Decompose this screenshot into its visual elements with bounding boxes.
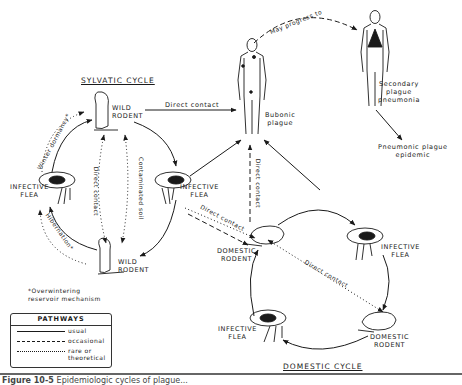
label-bubonic-plague: Bubonic plague [265, 111, 295, 127]
label-wild-rodent-top: WILD RODENT [112, 104, 143, 120]
legend-label: occasional [68, 337, 105, 344]
figure-caption: Figure 10-5 Epidemiologic cycles of plag… [2, 376, 188, 385]
domestic-cycle-title: DOMESTIC CYCLE [283, 362, 363, 371]
legend-item-occasional: occasional [11, 336, 111, 346]
label-infective-flea-domestic-right: INFECTIVE FLEA [381, 243, 420, 259]
label-infective-flea-sylvatic-right: INFECTIVE FLEA [180, 183, 219, 199]
dotted-line-swatch [17, 351, 65, 352]
sylvatic-cycle-arrows [50, 120, 176, 256]
label-direct-contact-top: Direct contact [165, 101, 219, 109]
legend-title: PATHWAYS [11, 314, 111, 326]
label-domestic-rodent-right: DOMESTIC RODENT [370, 333, 409, 349]
label-domestic-rodent-left: DOMESTIC RODENT [217, 247, 256, 263]
label-pneumonic-epidemic: Pneumonic plague epidemic [378, 143, 448, 159]
label-wild-rodent-bottom: WILD RODENT [118, 258, 149, 274]
label-infective-flea-sylvatic-left: INFECTIVE FLEA [10, 183, 49, 199]
solid-line-swatch [17, 331, 65, 332]
label-direct-contact-vertical: Direct contact [255, 159, 262, 208]
label-contaminated-soil: Contaminated soil [138, 157, 145, 220]
caption-text: Epidemiologic cycles of plague... [57, 376, 188, 385]
pathways-legend: PATHWAYS usual occasional rare or theore… [10, 313, 112, 368]
footnote-overwintering: *Overwintering reservoir mechanism [28, 287, 101, 303]
label-secondary-pneumonia: Secondary plague pneumonia [378, 80, 420, 104]
flea-domestic-right [347, 228, 383, 260]
domestic-rodent-right-shape [358, 312, 396, 332]
caption-divider [0, 373, 462, 375]
sylvatic-cycle-title: SYLVATIC CYCLE [81, 76, 155, 85]
legend-item-rare: rare or theoretical [11, 346, 111, 362]
legend-label: rare or theoretical [68, 347, 106, 361]
label-infective-flea-domestic-left: INFECTIVE FLEA [218, 325, 257, 341]
label-direct-contact-sylvatic: Direct contact [93, 167, 100, 216]
domestic-rodent-left-shape [246, 226, 284, 246]
dashed-line-swatch [17, 341, 65, 342]
human-figure-bubonic [238, 39, 266, 135]
caption-number: Figure 10-5 [2, 376, 54, 385]
legend-label: usual [68, 327, 87, 334]
legend-item-usual: usual [11, 326, 111, 336]
